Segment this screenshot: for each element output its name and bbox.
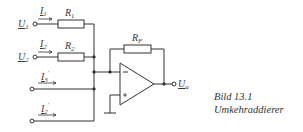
- u1-label: U1: [18, 19, 29, 31]
- i3-terminal: [30, 87, 34, 91]
- r1-label: R1: [65, 8, 75, 20]
- rf-resistor: [124, 45, 151, 53]
- figure-number: Bild 13.1: [214, 90, 284, 103]
- i3-label: I3': [41, 70, 49, 84]
- r2-label: R2: [65, 41, 75, 53]
- r1-resistor: [58, 20, 84, 28]
- u2-label: U2: [18, 52, 29, 64]
- output-label: Ua: [178, 79, 189, 91]
- output-terminal: [172, 82, 176, 86]
- rf-label: RF: [132, 33, 142, 45]
- figure-caption: Bild 13.1 Umkehraddierer: [214, 90, 284, 116]
- i1-label: I1: [40, 6, 47, 18]
- figure-title: Umkehraddierer: [214, 103, 284, 116]
- u1-terminal: [33, 22, 37, 26]
- i4-label: I2': [41, 102, 49, 116]
- r2-resistor: [58, 53, 84, 61]
- i4-terminal: [30, 119, 34, 123]
- opamp-triangle: [120, 63, 154, 105]
- i2-label: I2: [40, 39, 47, 51]
- u2-terminal: [33, 55, 37, 59]
